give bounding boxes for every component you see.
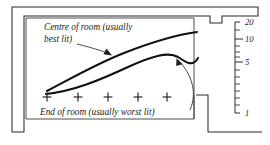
centre-of-room-label-line1: Centre of room (usually <box>44 22 133 33</box>
scale-label-1: 1 <box>245 108 249 118</box>
scale-label-20: 20 <box>245 17 254 27</box>
scale-label-5: 5 <box>245 57 250 67</box>
end-of-room-label-line1: End of room (usually worst lit) <box>39 107 155 118</box>
figure-background <box>0 0 270 145</box>
scale-label-10: 10 <box>245 34 254 44</box>
daylight-distribution-figure: Centre of room (usually best lit) End of… <box>0 0 270 145</box>
centre-of-room-label-line2: best lit) <box>44 34 72 45</box>
